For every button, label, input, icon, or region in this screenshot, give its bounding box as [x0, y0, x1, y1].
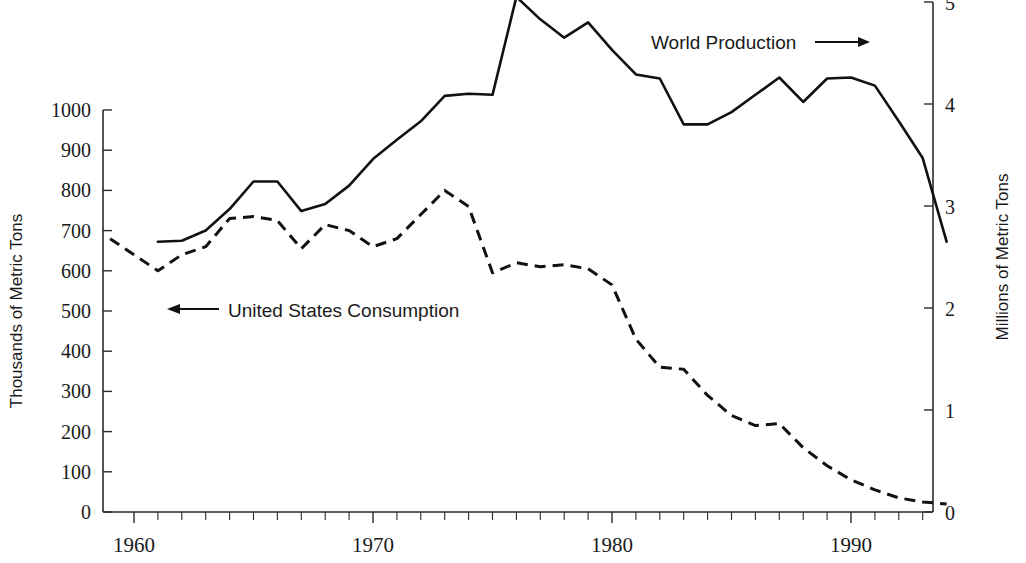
axes-group: 0100200300400500600700800900100001234519…: [7, 0, 1012, 557]
y-tick-label-left: 200: [61, 421, 91, 443]
y-tick-label-right: 5: [945, 0, 955, 14]
arrow-left-icon: [167, 304, 180, 314]
y-tick-label-left: 400: [61, 340, 91, 362]
series-line-world-production: [158, 0, 947, 242]
x-tick-label: 1980: [591, 533, 633, 557]
y-tick-label-left: 700: [61, 220, 91, 242]
y-tick-label-left: 1000: [51, 99, 91, 121]
line-chart: 0100200300400500600700800900100001234519…: [0, 0, 1026, 563]
world-production-label: World Production: [651, 32, 796, 53]
y-tick-label-left: 0: [81, 501, 91, 523]
y-tick-label-right: 3: [945, 196, 955, 218]
series-line-us-consumption: [110, 190, 947, 504]
x-tick-label: 1970: [352, 533, 394, 557]
y-tick-label-left: 300: [61, 380, 91, 402]
y-tick-label-left: 800: [61, 179, 91, 201]
chart-container: 0100200300400500600700800900100001234519…: [0, 0, 1026, 563]
y-tick-label-right: 0: [945, 502, 955, 524]
us-consumption-label: United States Consumption: [228, 300, 459, 321]
annotations-group: World ProductionUnited States Consumptio…: [167, 32, 870, 321]
x-tick-label: 1990: [830, 533, 872, 557]
y-tick-label-right: 1: [945, 400, 955, 422]
y-axis-title-left-text: Thousands of Metric Tons: [7, 214, 26, 408]
y-tick-label-left: 100: [61, 461, 91, 483]
y-tick-label-left: 500: [61, 300, 91, 322]
x-tick-label: 1960: [113, 533, 155, 557]
arrow-right-icon: [858, 37, 870, 47]
y-tick-label-right: 4: [945, 94, 955, 116]
y-tick-label-left: 900: [61, 139, 91, 161]
y-tick-label-left: 600: [61, 260, 91, 282]
series-group: [110, 0, 947, 504]
y-axis-title-right-text: Millions of Metric Tons: [993, 174, 1012, 341]
y-tick-label-right: 2: [945, 298, 955, 320]
